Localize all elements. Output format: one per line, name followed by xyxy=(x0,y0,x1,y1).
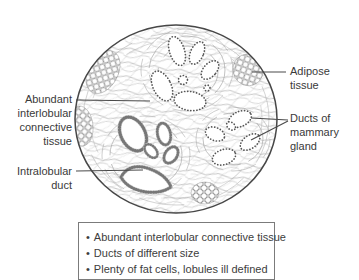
summary-notes-box: •Abundant interlobular connective tissue… xyxy=(78,222,275,280)
bullet-icon: • xyxy=(86,247,90,259)
note-text: Plenty of fat cells, lobules ill defined xyxy=(94,263,268,275)
note-item: •Abundant interlobular connective tissue xyxy=(86,229,270,245)
note-text: Abundant interlobular connective tissue xyxy=(94,231,286,243)
bullet-icon: • xyxy=(86,263,90,275)
summary-notes-list: •Abundant interlobular connective tissue… xyxy=(86,229,270,277)
note-text: Ducts of different size xyxy=(94,247,200,259)
label-adipose-tissue: Adipose tissue xyxy=(290,64,330,92)
label-ducts-of-mammary-gland: Ducts of mammary gland xyxy=(290,111,339,153)
note-item: •Plenty of fat cells, lobules ill define… xyxy=(86,261,270,277)
label-intralobular-duct: Intralobular duct xyxy=(17,164,72,192)
note-item: •Ducts of different size xyxy=(86,245,270,261)
bullet-icon: • xyxy=(86,231,90,243)
label-abundant-interlobular-connective-tissue: Abundant interlobular connective tissue xyxy=(18,92,72,148)
